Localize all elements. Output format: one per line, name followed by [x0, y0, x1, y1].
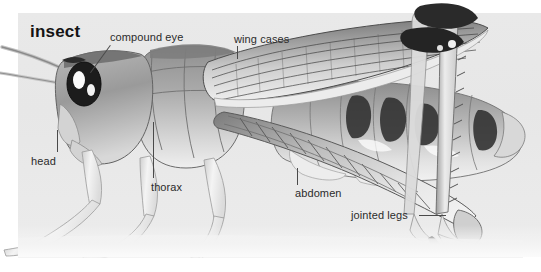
label-jointed-legs: jointed legs	[351, 209, 408, 221]
label-abdomen: abdomen	[295, 187, 342, 199]
leader-line-wing-cases	[237, 46, 238, 59]
leader-line-thorax	[153, 122, 154, 178]
insect-diagram-figure: insect compound eye wing cases head thor…	[0, 0, 541, 272]
label-wing-cases: wing cases	[234, 33, 289, 45]
page-title: insect	[30, 22, 80, 41]
label-compound-eye: compound eye	[110, 31, 183, 43]
leader-line-head	[57, 130, 58, 152]
label-head: head	[31, 155, 56, 167]
leader-line-jointed-legs	[419, 215, 446, 216]
label-thorax: thorax	[151, 181, 182, 193]
leader-line-abdomen	[297, 168, 298, 185]
panel-bottom-fade	[18, 225, 541, 257]
